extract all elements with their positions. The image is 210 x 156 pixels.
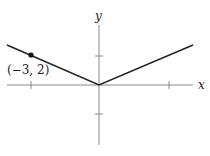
x-axis-label: x (198, 78, 205, 92)
point-label: (−3, 2) (7, 63, 49, 77)
point-marker (28, 52, 33, 57)
graph-canvas: (−3, 2) x y (0, 0, 210, 156)
y-axis-label: y (94, 9, 102, 23)
